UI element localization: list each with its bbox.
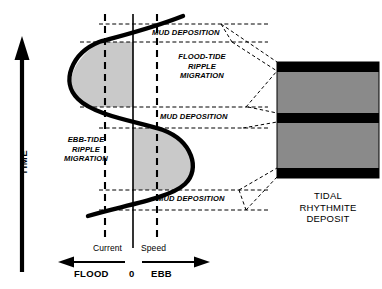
flood-ripple-line-1: FLOOD-TIDE (160, 52, 244, 62)
flood-ripple-line-2: RIPPLE (160, 62, 244, 72)
connector-edge-top (221, 24, 232, 42)
ebb-direction-arrow (142, 257, 210, 268)
deposit-title-line-1: TIDAL (277, 190, 379, 202)
zero-label: 0 (129, 268, 135, 279)
deposit-title-line-3: DEPOSIT (277, 213, 379, 225)
ebb-ripple-shade (133, 128, 193, 190)
tidal-rhythmite-deposit-label: TIDAL RHYTHMITE DEPOSIT (277, 190, 379, 225)
sand-layer-upper (277, 72, 379, 113)
ebb-ripple-line-2: RIPPLE (44, 145, 128, 155)
connector-edge-bot (239, 190, 246, 210)
mud-layer-bottom (277, 168, 379, 178)
ebb-ripple-line-1: EBB-TIDE (44, 135, 128, 145)
mud-layer-top (277, 62, 379, 72)
connector-bot-a (239, 168, 277, 190)
flood-label: FLOOD (74, 268, 109, 279)
time-axis-label: TIME (18, 150, 29, 175)
mud-deposition-label-bottom: MUD DEPOSITION (157, 194, 225, 203)
flood-ripple-migration-label: FLOOD-TIDE RIPPLE MIGRATION (160, 52, 244, 81)
connector-mid-a (248, 107, 277, 113)
connector-sand-upper (246, 71, 277, 107)
deposit-title-line-2: RHYTHMITE (277, 202, 379, 214)
flood-direction-arrow (58, 257, 125, 268)
ebb-label: EBB (151, 268, 172, 279)
tidal-rhythmite-core (277, 62, 379, 178)
mud-deposition-label-top: MUD DEPOSITION (152, 28, 220, 37)
ebb-ripple-line-3: MIGRATION (44, 154, 128, 164)
flood-ripple-line-3: MIGRATION (160, 71, 244, 81)
ebb-ripple-migration-label: EBB-TIDE RIPPLE MIGRATION (44, 135, 128, 164)
connector-bot-b (246, 177, 277, 210)
connector-mid-b (243, 122, 277, 128)
mud-layer-middle (277, 113, 379, 123)
mud-deposition-label-middle: MUD DEPOSITION (160, 112, 228, 121)
speed-caption: Speed (141, 243, 166, 253)
current-caption: Current (93, 243, 122, 253)
figure-canvas: TIME MUD DEPOSITION MUD DEPOSITION MUD D… (0, 0, 382, 289)
sand-layer-lower (277, 123, 379, 168)
